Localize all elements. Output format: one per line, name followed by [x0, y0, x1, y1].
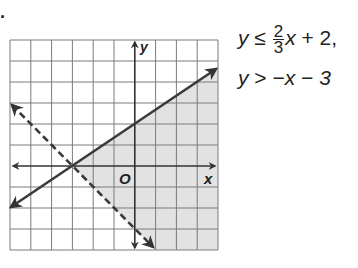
ineq1-var: x [285, 26, 296, 49]
ineq2-operator: > [249, 66, 273, 89]
ineq2-lhs: y [238, 66, 249, 89]
inequality-2: y > −x − 3 [238, 66, 331, 90]
origin-label: O [119, 170, 131, 187]
inequality-1: y ≤ 2 3 x + 2, [238, 24, 337, 55]
fraction: 2 3 [273, 24, 284, 55]
coordinate-graph: y x O [0, 0, 230, 268]
ineq2-rest: −x − 3 [272, 66, 330, 89]
solution-region [72, 68, 218, 250]
ineq1-rest: + 2, [296, 26, 337, 49]
y-axis-label: y [139, 39, 149, 55]
ineq1-operator: ≤ [254, 26, 266, 49]
fraction-denominator: 3 [273, 40, 284, 55]
x-axis-label: x [203, 170, 213, 187]
ineq1-lhs: y [238, 26, 249, 49]
